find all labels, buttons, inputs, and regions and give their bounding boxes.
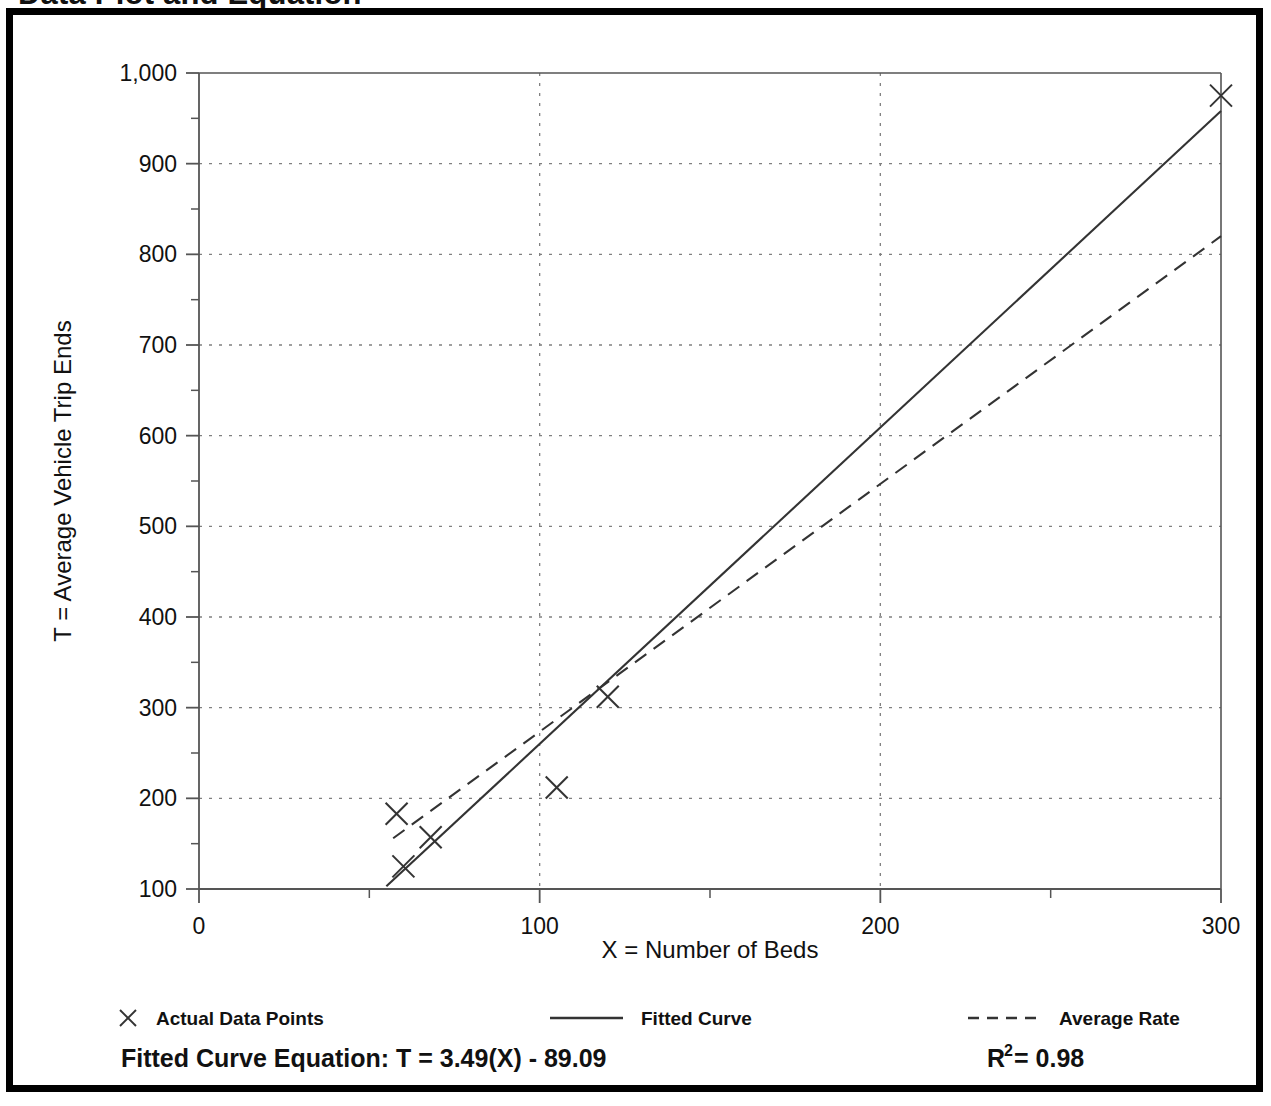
x-tick-label: 200 [861,913,899,939]
plot-area-border [199,73,1221,889]
series-average-rate [393,236,1221,838]
x-tick-label: 100 [520,913,558,939]
legend-label-fitted-curve: Fitted Curve [641,1008,752,1029]
data-point-marker [546,776,568,798]
y-tick-label: 300 [139,695,177,721]
x-marker-icon [120,1010,136,1026]
x-axis [199,889,1221,903]
r-squared-value: = 0.98 [1014,1044,1084,1072]
chart-figure: 1002003004005006007008009001,000 0100200… [13,15,1270,1099]
chart-legend: Actual Data Points Fitted Curve Average … [120,1008,1180,1029]
x-tick-label: 0 [193,913,206,939]
y-tick-label: 400 [139,604,177,630]
y-axis [186,73,199,889]
y-tick-label: 1,000 [119,60,177,86]
chart-frame: 1002003004005006007008009001,000 0100200… [6,8,1263,1092]
y-tick-label: 900 [139,151,177,177]
grid-vertical [540,73,881,889]
y-tick-label: 600 [139,423,177,449]
r-squared-exponent: 2 [1004,1042,1013,1059]
r-squared-annotation: R 2 = 0.98 [987,1042,1084,1072]
y-axis-title: T = Average Vehicle Trip Ends [49,320,76,641]
y-tick-label: 500 [139,513,177,539]
fitted-curve-equation: Fitted Curve Equation: T = 3.49(X) - 89.… [121,1044,607,1072]
y-tick-label: 200 [139,785,177,811]
r-squared-base: R [987,1044,1005,1072]
series-fitted-curve [386,111,1221,886]
data-point-marker [392,855,414,877]
legend-label-average-rate: Average Rate [1059,1008,1180,1029]
y-axis-tick-labels: 1002003004005006007008009001,000 [119,60,177,902]
x-axis-title: X = Number of Beds [602,936,819,963]
y-tick-label: 100 [139,876,177,902]
legend-item-fitted-curve: Fitted Curve [550,1008,752,1029]
grid-horizontal [199,164,1221,799]
legend-label-actual-data-points: Actual Data Points [156,1008,324,1029]
data-point-marker [597,686,619,708]
y-tick-label: 700 [139,332,177,358]
x-tick-label: 300 [1202,913,1240,939]
chart-svg: 1002003004005006007008009001,000 0100200… [13,15,1270,1099]
legend-item-average-rate: Average Rate [968,1008,1180,1029]
y-tick-label: 800 [139,241,177,267]
data-point-marker [386,803,408,825]
series-actual-data-points [386,85,1232,878]
legend-item-actual-data-points: Actual Data Points [120,1008,324,1029]
